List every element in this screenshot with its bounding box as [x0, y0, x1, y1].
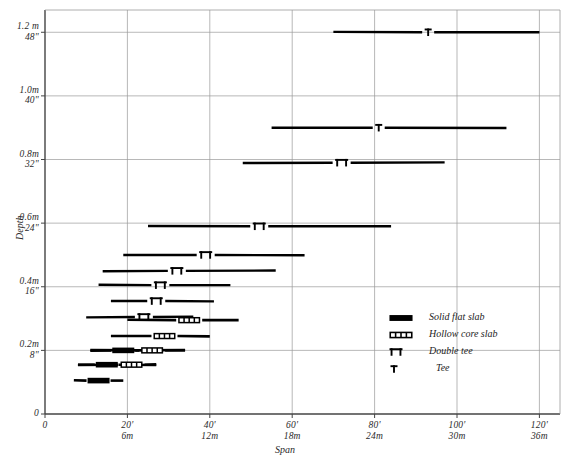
double-tee-icon-stem — [164, 281, 166, 289]
y-tick-label: 1.0m40" — [0, 85, 39, 106]
legend-item[interactable]: Tee — [383, 361, 543, 378]
y-tick-label-imperial: 16" — [0, 286, 39, 297]
x-tick-label-metric: 12m — [180, 431, 240, 442]
y-tick-label-imperial: 40" — [0, 95, 39, 106]
hollow-core-void — [160, 334, 164, 337]
tee-icon-stem — [427, 29, 429, 36]
legend-symbol-glyph — [389, 332, 412, 339]
hollow-core-void — [155, 334, 159, 337]
y-tick-label-imperial: 8" — [0, 350, 39, 361]
y-tick-label: 0 — [0, 408, 39, 419]
double-tee-icon-stem — [391, 348, 393, 356]
y-tick-label: 0.4m16" — [0, 276, 39, 297]
legend-label: Double tee — [429, 345, 473, 356]
y-tick-label-metric: 1.0m — [0, 85, 39, 96]
x-tick-label-metric: 24m — [345, 431, 405, 442]
legend-symbol — [387, 310, 427, 326]
legend-symbol-glyph — [390, 348, 403, 356]
x-tick-label-imperial: 20' — [97, 420, 157, 431]
x-tick-label: 60'18m — [262, 420, 322, 441]
hollow-core-void — [127, 363, 131, 366]
tee-icon-stem — [378, 124, 380, 132]
x-tick-label: 0 — [15, 420, 75, 431]
legend-label: Tee — [436, 362, 450, 373]
y-tick-label-metric: 0 — [0, 408, 39, 419]
hollow-core-void — [170, 334, 174, 337]
double-tee-icon-stem — [400, 348, 402, 356]
chart-canvas — [0, 0, 570, 457]
double-tee-icon-stem — [254, 223, 256, 231]
hollow-core-void — [195, 318, 199, 321]
x-tick-label-imperial: 0 — [15, 420, 75, 431]
x-tick-label: 40'12m — [180, 420, 240, 441]
legend-symbol — [387, 344, 427, 360]
hollow-core-void — [402, 333, 406, 337]
x-tick-label-imperial: 100' — [427, 420, 487, 431]
double-tee-icon-stem — [336, 159, 338, 167]
hollow-core-void — [122, 363, 126, 366]
hollow-core-void — [190, 318, 194, 321]
x-tick-label: 120'36m — [509, 420, 569, 441]
x-tick-label-metric: 36m — [509, 431, 569, 442]
y-tick-label-imperial: 48" — [0, 32, 39, 43]
x-tick-label-metric: 18m — [262, 431, 322, 442]
double-tee-icon-stem — [263, 223, 265, 231]
hollow-core-void — [396, 333, 400, 337]
x-tick-label-metric: 6m — [97, 431, 157, 442]
y-tick-label-metric: 0.4m — [0, 276, 39, 287]
y-tick-label-metric: 1.2 m — [0, 21, 39, 32]
x-tick-label: 80'24m — [345, 420, 405, 441]
legend-label: Solid flat slab — [429, 311, 485, 322]
x-tick-label-metric: 30m — [427, 431, 487, 442]
double-tee-icon-stem — [180, 267, 182, 275]
hollow-core-void — [185, 318, 189, 321]
y-tick-label-metric: 0.8m — [0, 149, 39, 160]
tee-icon-stem — [393, 365, 395, 373]
legend-label: Hollow core slab — [429, 328, 498, 339]
double-tee-icon-stem — [155, 281, 157, 289]
legend-symbol — [387, 327, 427, 343]
solid-flat-slab-icon — [88, 378, 110, 384]
x-tick-label-imperial: 80' — [345, 420, 405, 431]
double-tee-icon-stem — [209, 251, 211, 259]
x-tick-label-imperial: 60' — [262, 420, 322, 431]
y-tick-label-imperial: 32" — [0, 159, 39, 170]
y-axis-title: Depth — [14, 216, 25, 240]
legend-symbol-glyph — [389, 315, 412, 321]
chart-legend: Solid flat slabHollow core slabDouble te… — [383, 310, 543, 378]
y-tick-label: 1.2 m48" — [0, 21, 39, 42]
solid-flat-slab-icon — [389, 315, 412, 321]
legend-item[interactable]: Double tee — [383, 344, 543, 361]
legend-item[interactable]: Hollow core slab — [383, 327, 543, 344]
legend-symbol — [387, 361, 427, 377]
double-tee-icon-stem — [160, 297, 162, 305]
x-tick-label-imperial: 40' — [180, 420, 240, 431]
hollow-core-void — [153, 349, 157, 352]
hollow-core-void — [407, 333, 411, 337]
x-tick-label: 100'30m — [427, 420, 487, 441]
hollow-core-void — [391, 333, 395, 337]
hollow-core-void — [165, 334, 169, 337]
hollow-core-void — [137, 363, 141, 366]
y-tick-label: 0.2m8" — [0, 339, 39, 360]
x-tick-label-imperial: 120' — [509, 420, 569, 431]
chart-background — [0, 0, 570, 457]
hollow-core-void — [158, 349, 162, 352]
double-tee-icon-stem — [171, 267, 173, 275]
hollow-core-void — [143, 349, 147, 352]
legend-item[interactable]: Solid flat slab — [383, 310, 543, 327]
y-tick-label: 0.8m32" — [0, 149, 39, 170]
x-axis-title: Span — [275, 444, 295, 455]
x-tick-label: 20'6m — [97, 420, 157, 441]
hollow-core-void — [132, 363, 136, 366]
legend-symbol-glyph — [391, 365, 398, 373]
hollow-core-void — [180, 318, 184, 321]
y-tick-label-metric: 0.2m — [0, 339, 39, 350]
double-tee-icon-stem — [151, 297, 153, 305]
hollow-core-void — [148, 349, 152, 352]
double-tee-icon-stem — [345, 159, 347, 167]
double-tee-icon-stem — [200, 251, 202, 259]
